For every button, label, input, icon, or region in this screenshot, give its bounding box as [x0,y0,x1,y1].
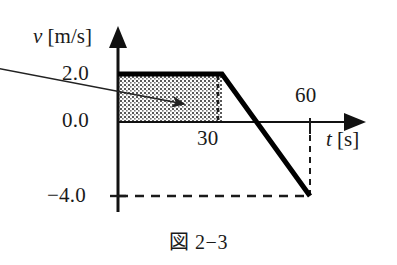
y-axis-arrowhead [109,26,127,48]
x-tick-label-30: 30 [197,128,218,149]
shaded-area-under-curve [118,74,222,122]
x-tick-label-60: 60 [295,85,316,106]
y-axis-symbol: v [33,24,42,48]
y-axis-label: v [m/s] [33,26,92,47]
velocity-time-graph-figure: v [m/s] 2.0 0.0 −4.0 30 60 t [s] 図 2−3 [0,0,397,265]
x-axis-unit: [s] [337,127,359,151]
y-axis-unit: [m/s] [48,24,92,48]
y-tick-label-neg4: −4.0 [47,185,86,206]
x-axis-label: t [s] [326,129,359,150]
figure-caption: 図 2−3 [0,226,397,255]
y-tick-label-2: 2.0 [62,63,89,84]
y-tick-label-0: 0.0 [62,110,89,131]
